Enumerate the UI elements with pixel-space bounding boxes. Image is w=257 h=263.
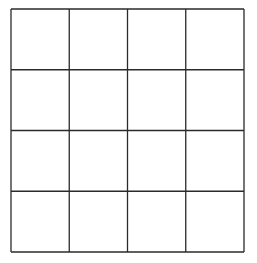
grid-cell bbox=[69, 9, 127, 70]
grid-cell bbox=[69, 191, 127, 252]
grid-cell bbox=[128, 131, 186, 192]
grid-cell bbox=[11, 131, 69, 192]
grid-diagram bbox=[0, 0, 257, 263]
grid-cell bbox=[11, 70, 69, 131]
grid-cell bbox=[186, 70, 244, 131]
grid-cell bbox=[128, 191, 186, 252]
grid-cell bbox=[186, 191, 244, 252]
grid-cell bbox=[69, 70, 127, 131]
grid-cell bbox=[186, 9, 244, 70]
grid-cell bbox=[11, 9, 69, 70]
grid-cell bbox=[186, 131, 244, 192]
grid-cell bbox=[128, 9, 186, 70]
grid-cell bbox=[128, 70, 186, 131]
grid-cell bbox=[11, 191, 69, 252]
grid-cell bbox=[69, 131, 127, 192]
